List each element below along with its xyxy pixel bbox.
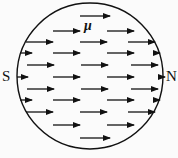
south-pole-label: S <box>2 69 10 84</box>
magnetic-moment-arrows <box>17 16 165 138</box>
magnetic-moment-label: μ <box>84 19 92 33</box>
north-pole-label: N <box>166 69 177 84</box>
magnetized-sphere-diagram: S N μ <box>0 0 178 158</box>
